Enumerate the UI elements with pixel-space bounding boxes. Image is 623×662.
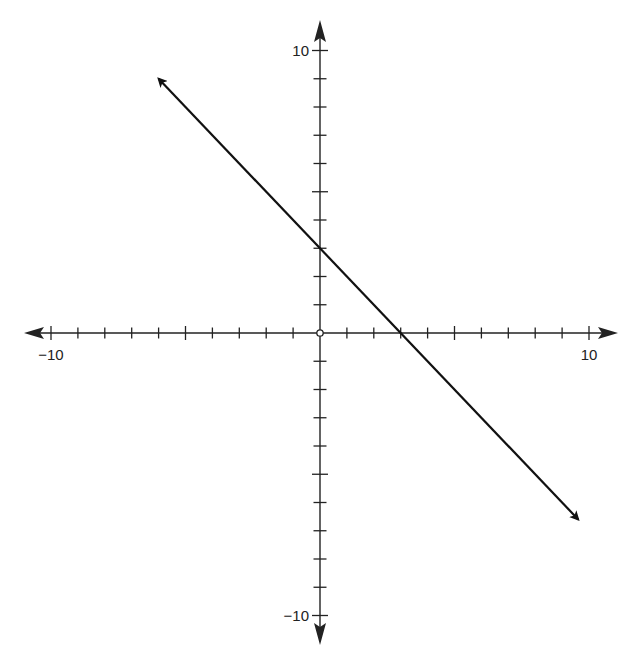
- data-line: [159, 79, 579, 520]
- x-tick-label: 10: [581, 346, 598, 363]
- x-tick-label: −10: [38, 346, 63, 363]
- series-line: [159, 79, 579, 520]
- y-tick-label: 10: [292, 42, 309, 59]
- coordinate-plane: −101010−10: [0, 0, 623, 662]
- origin-marker: [317, 330, 323, 336]
- y-tick-label: −10: [284, 607, 309, 624]
